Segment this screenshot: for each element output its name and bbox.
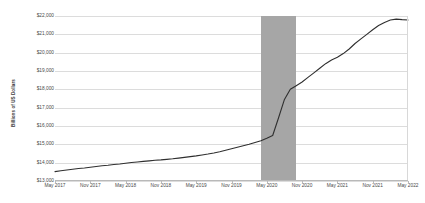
y-tick-label: $15,000 <box>20 142 54 147</box>
series-line <box>55 16 408 181</box>
x-tick-label: May 2020 <box>256 184 277 189</box>
x-tick-label: Nov 2021 <box>362 184 383 189</box>
x-tick-mark <box>302 181 303 184</box>
x-tick-mark <box>55 181 56 184</box>
x-tick-mark <box>337 181 338 184</box>
y-tick-label: $14,000 <box>20 160 54 165</box>
x-tick-label: May 2017 <box>44 184 65 189</box>
x-tick-label: Nov 2018 <box>151 184 172 189</box>
x-tick-mark <box>232 181 233 184</box>
x-tick-mark <box>90 181 91 184</box>
y-axis-title-label: Billions of US Dollars <box>11 79 16 127</box>
y-tick-label: $20,000 <box>20 50 54 55</box>
x-tick-mark <box>161 181 162 184</box>
x-tick-mark <box>126 181 127 184</box>
x-tick-label: May 2019 <box>186 184 207 189</box>
x-tick-mark <box>408 181 409 184</box>
x-tick-label: Nov 2019 <box>221 184 242 189</box>
plot-right-border <box>407 16 408 181</box>
y-tick-label: $19,000 <box>20 69 54 74</box>
plot-area <box>55 16 408 181</box>
x-tick-label: May 2021 <box>327 184 348 189</box>
y-tick-label: $21,000 <box>20 32 54 37</box>
x-tick-label: May 2018 <box>115 184 136 189</box>
x-tick-label: Nov 2020 <box>292 184 313 189</box>
y-axis-tick-labels: $22,000$21,000$20,000$19,000$18,000$17,0… <box>20 0 54 203</box>
x-tick-mark <box>373 181 374 184</box>
money-supply-line-chart: Billions of US Dollars $22,000$21,000$20… <box>0 0 425 203</box>
x-axis-tick-labels: May 2017Nov 2017May 2018Nov 2018May 2019… <box>0 184 425 198</box>
x-tick-label: May 2022 <box>397 184 418 189</box>
x-tick-mark <box>267 181 268 184</box>
y-axis-title: Billions of US Dollars <box>6 55 20 150</box>
y-tick-label: $22,000 <box>20 14 54 19</box>
x-tick-label: Nov 2017 <box>80 184 101 189</box>
y-tick-label: $16,000 <box>20 124 54 129</box>
y-tick-label: $17,000 <box>20 105 54 110</box>
x-tick-mark <box>196 181 197 184</box>
y-tick-label: $18,000 <box>20 87 54 92</box>
